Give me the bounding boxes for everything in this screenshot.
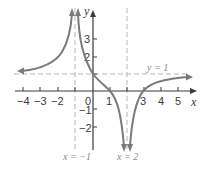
arrow-right-branch-end-icon bbox=[186, 74, 193, 81]
curve-branch-right bbox=[130, 77, 188, 146]
arrow-left-branch-top-icon bbox=[69, 8, 75, 16]
y-axis-arrow-icon bbox=[90, 10, 96, 17]
curve-branch-left bbox=[22, 14, 72, 71]
arrow-middle-branch-top-icon bbox=[75, 8, 81, 16]
y-axis-label: y bbox=[83, 4, 90, 18]
asymptote-label-x-2: x = 2 bbox=[116, 151, 138, 162]
curve bbox=[22, 14, 188, 146]
tick-y-m1: −1 bbox=[79, 104, 92, 116]
tick-x-5: 5 bbox=[175, 95, 181, 107]
tick-x-3: 3 bbox=[140, 95, 146, 107]
tick-x-4: 4 bbox=[158, 95, 164, 107]
tick-x-m4: −4 bbox=[17, 95, 30, 107]
tick-y-m2: −2 bbox=[79, 122, 92, 134]
asymptote-label-x-minus-1: x = −1 bbox=[62, 151, 91, 162]
tick-x-1: 1 bbox=[106, 95, 112, 107]
asymptote-label-y-1: y = 1 bbox=[146, 62, 168, 73]
x-axis-arrow-icon bbox=[190, 88, 197, 94]
arrow-left-branch-end-icon bbox=[17, 68, 24, 75]
tick-x-m3: −3 bbox=[34, 95, 47, 107]
rational-function-graph: −4 −3 −2 0 1 3 4 5 3 2 −1 −2 x y x = −1 … bbox=[0, 0, 213, 173]
x-axis-label: x bbox=[190, 95, 197, 109]
tick-x-m2: −2 bbox=[51, 95, 64, 107]
tick-y-3: 3 bbox=[84, 33, 90, 45]
